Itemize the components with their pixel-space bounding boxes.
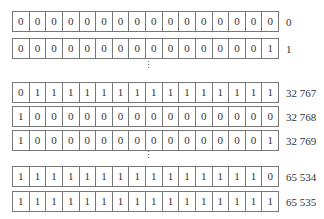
bit-cell: 0 bbox=[113, 39, 130, 58]
bit-cell: 0 bbox=[229, 107, 246, 126]
bit-cell: 1 bbox=[262, 39, 278, 58]
bit-cell: 0 bbox=[46, 12, 63, 31]
bit-cell: 1 bbox=[213, 167, 230, 186]
bit-cell: 1 bbox=[46, 83, 63, 102]
bit-cell: 0 bbox=[30, 107, 47, 126]
bit-cell: 0 bbox=[179, 39, 196, 58]
bit-cell: 1 bbox=[46, 167, 63, 186]
decimal-value-label: 32 768 bbox=[286, 106, 316, 127]
bit-cell: 0 bbox=[129, 131, 146, 150]
decimal-value-label: 1 bbox=[286, 38, 292, 59]
bit-cell: 1 bbox=[129, 167, 146, 186]
bit-cell: 1 bbox=[163, 83, 180, 102]
bit-cell: 0 bbox=[229, 12, 246, 31]
bit-cell: 0 bbox=[146, 107, 163, 126]
bit-cell: 0 bbox=[229, 131, 246, 150]
bit-cell: 1 bbox=[63, 167, 80, 186]
bit-cell: 1 bbox=[246, 192, 263, 211]
bit-cell: 0 bbox=[262, 167, 278, 186]
bit-cell: 1 bbox=[96, 192, 113, 211]
bit-cell: 0 bbox=[13, 83, 30, 102]
bit-cell: 0 bbox=[179, 12, 196, 31]
bit-cell: 1 bbox=[30, 83, 47, 102]
bit-cell: 0 bbox=[129, 39, 146, 58]
bit-cell: 1 bbox=[80, 192, 97, 211]
bit-cell: 0 bbox=[30, 12, 47, 31]
bit-cell: 1 bbox=[213, 83, 230, 102]
bit-cell: 1 bbox=[246, 167, 263, 186]
bit-cell: 0 bbox=[146, 12, 163, 31]
vertical-ellipsis-2: ⋮ bbox=[144, 153, 146, 157]
bit-cell: 0 bbox=[63, 12, 80, 31]
bit-cell: 1 bbox=[63, 83, 80, 102]
bit-cell: 0 bbox=[129, 12, 146, 31]
bit-cell: 1 bbox=[46, 192, 63, 211]
bit-row: 0111111111111111 bbox=[12, 82, 279, 103]
bit-cell: 0 bbox=[113, 131, 130, 150]
bit-cell: 0 bbox=[30, 39, 47, 58]
bit-cell: 1 bbox=[96, 83, 113, 102]
bit-cell: 0 bbox=[213, 12, 230, 31]
bit-cell: 0 bbox=[213, 107, 230, 126]
bit-cell: 1 bbox=[246, 83, 263, 102]
bit-cell: 1 bbox=[30, 167, 47, 186]
bit-cell: 0 bbox=[113, 107, 130, 126]
bit-cell: 0 bbox=[262, 107, 278, 126]
bit-cell: 0 bbox=[146, 131, 163, 150]
bit-row: 1111111111111111 bbox=[12, 191, 279, 212]
bit-cell: 0 bbox=[96, 131, 113, 150]
bit-cell: 1 bbox=[113, 192, 130, 211]
bit-row: 0000000000000000 bbox=[12, 11, 279, 32]
bit-cell: 0 bbox=[179, 107, 196, 126]
bit-cell: 0 bbox=[96, 107, 113, 126]
bit-cell: 0 bbox=[46, 39, 63, 58]
bit-row: 0000000000000001 bbox=[12, 38, 279, 59]
bit-cell: 1 bbox=[13, 131, 30, 150]
bit-cell: 0 bbox=[80, 12, 97, 31]
bit-cell: 1 bbox=[179, 167, 196, 186]
bit-cell: 1 bbox=[146, 83, 163, 102]
bit-cell: 0 bbox=[80, 39, 97, 58]
bit-cell: 0 bbox=[246, 39, 263, 58]
bit-row: 1111111111111110 bbox=[12, 166, 279, 187]
bit-cell: 0 bbox=[246, 12, 263, 31]
decimal-value-label: 32 769 bbox=[286, 130, 316, 151]
bit-cell: 0 bbox=[146, 39, 163, 58]
bit-cell: 0 bbox=[163, 39, 180, 58]
bit-cell: 1 bbox=[113, 167, 130, 186]
bit-cell: 0 bbox=[246, 131, 263, 150]
bit-cell: 1 bbox=[13, 107, 30, 126]
bit-cell: 1 bbox=[196, 167, 213, 186]
bit-cell: 0 bbox=[163, 107, 180, 126]
bit-cell: 1 bbox=[229, 167, 246, 186]
bit-cell: 1 bbox=[179, 192, 196, 211]
bit-cell: 1 bbox=[262, 192, 278, 211]
decimal-value-label: 32 767 bbox=[286, 82, 316, 103]
bit-row: 1000000000000000 bbox=[12, 106, 279, 127]
bit-cell: 0 bbox=[13, 39, 30, 58]
bit-cell: 0 bbox=[80, 131, 97, 150]
bit-cell: 0 bbox=[262, 12, 278, 31]
bit-cell: 0 bbox=[163, 131, 180, 150]
bit-cell: 0 bbox=[196, 131, 213, 150]
bit-cell: 1 bbox=[229, 83, 246, 102]
bit-cell: 1 bbox=[13, 167, 30, 186]
bit-cell: 0 bbox=[179, 131, 196, 150]
bit-cell: 1 bbox=[113, 83, 130, 102]
bit-cell: 1 bbox=[262, 131, 278, 150]
bit-cell: 1 bbox=[13, 192, 30, 211]
bit-cell: 0 bbox=[229, 39, 246, 58]
bit-cell: 0 bbox=[163, 12, 180, 31]
bit-cell: 1 bbox=[179, 83, 196, 102]
bit-cell: 0 bbox=[213, 131, 230, 150]
bit-cell: 1 bbox=[163, 192, 180, 211]
bit-cell: 1 bbox=[30, 192, 47, 211]
bit-cell: 0 bbox=[96, 39, 113, 58]
decimal-value-label: 65 534 bbox=[286, 166, 316, 187]
bit-cell: 0 bbox=[13, 12, 30, 31]
bit-cell: 1 bbox=[129, 83, 146, 102]
bit-cell: 0 bbox=[63, 131, 80, 150]
bit-cell: 1 bbox=[196, 192, 213, 211]
bit-cell: 1 bbox=[262, 83, 278, 102]
bit-cell: 0 bbox=[46, 131, 63, 150]
